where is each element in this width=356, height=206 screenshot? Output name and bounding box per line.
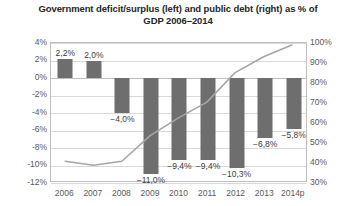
x-axis-tick: 2013 xyxy=(250,186,279,202)
right-axis: 100%90%80%70%60%50%40%30% xyxy=(310,42,356,182)
plot-area: 2,2%2,0%−4,0%−11,0%−9,4%−9,4%−10,3%−6,8%… xyxy=(50,42,307,182)
right-axis-tick: 50% xyxy=(310,138,327,147)
left-axis-tick: 4% xyxy=(35,38,47,47)
line-series-public-debt xyxy=(51,43,306,181)
left-axis-tick: -8% xyxy=(32,143,47,152)
right-axis-tick: 70% xyxy=(310,98,327,107)
right-axis-tick: 30% xyxy=(310,178,327,187)
right-axis-tick: 90% xyxy=(310,58,327,67)
right-axis-tick: 100% xyxy=(310,38,332,47)
right-axis-tick: 80% xyxy=(310,78,327,87)
public-debt-line xyxy=(65,45,292,165)
x-axis-tick: 2006 xyxy=(50,186,79,202)
left-axis: 4%2%0%-2%-4%-6%-8%-10%-12% xyxy=(0,42,47,182)
left-axis-tick: -6% xyxy=(32,125,47,134)
chart-title: Government deficit/surplus (left) and pu… xyxy=(28,3,328,27)
x-axis-tick: 2010 xyxy=(164,186,193,202)
x-axis-tick: 2008 xyxy=(107,186,136,202)
x-axis-tick: 2014p xyxy=(279,186,308,202)
right-axis-tick: 60% xyxy=(310,118,327,127)
gridline xyxy=(51,183,306,184)
left-axis-tick: -4% xyxy=(32,108,47,117)
left-axis-tick: 0% xyxy=(35,73,47,82)
x-axis-tick: 2007 xyxy=(79,186,108,202)
x-axis-tick: 2012 xyxy=(221,186,250,202)
left-axis-tick: -12% xyxy=(27,178,47,187)
x-axis: 200620072008200920102011201220132014p xyxy=(50,186,307,202)
left-axis-tick: 2% xyxy=(35,55,47,64)
left-axis-tick: -2% xyxy=(32,90,47,99)
right-axis-tick: 40% xyxy=(310,158,327,167)
x-axis-tick: 2011 xyxy=(193,186,222,202)
x-axis-tick: 2009 xyxy=(136,186,165,202)
left-axis-tick: -10% xyxy=(27,160,47,169)
chart-container: Government deficit/surplus (left) and pu… xyxy=(0,0,356,206)
